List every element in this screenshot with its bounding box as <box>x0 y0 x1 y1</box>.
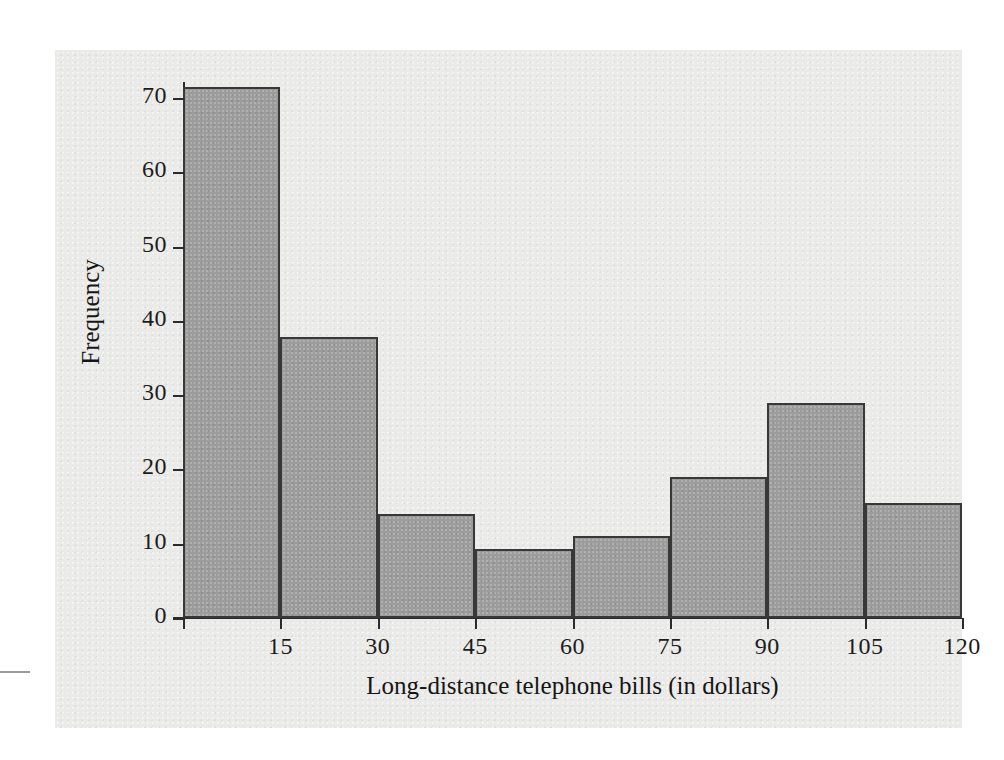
x-axis-tick <box>767 618 769 629</box>
y-axis-tick <box>173 469 184 471</box>
bar-texture <box>477 551 570 616</box>
histogram-bar <box>378 514 475 618</box>
y-axis-tick <box>173 172 184 174</box>
bar-texture <box>867 505 960 616</box>
y-axis-tick <box>173 247 184 249</box>
histogram-bar <box>475 549 572 618</box>
plot-area: 010203040506070 153045607590105120 Long-… <box>55 50 962 728</box>
x-axis-tick-label: 15 <box>245 633 315 660</box>
x-axis-tick-label: 45 <box>440 633 510 660</box>
x-axis-tick-label: 105 <box>830 633 900 660</box>
y-axis-tick-label: 10 <box>107 528 167 555</box>
bar-texture <box>282 339 375 616</box>
x-axis-tick <box>475 618 477 629</box>
histogram-bar <box>865 503 962 618</box>
histogram-bar <box>183 87 280 618</box>
x-axis-tick-label: 90 <box>732 633 802 660</box>
bar-texture <box>575 538 668 616</box>
x-axis-tick <box>378 618 380 629</box>
bar-texture <box>769 405 862 616</box>
x-axis-tick <box>183 618 185 629</box>
x-axis-tick <box>280 618 282 629</box>
histogram-bar <box>573 536 670 618</box>
y-axis-tick <box>173 395 184 397</box>
histogram-bar <box>767 403 864 618</box>
y-axis-tick-label: 50 <box>107 231 167 258</box>
figure-panel: 010203040506070 153045607590105120 Long-… <box>55 50 962 728</box>
y-axis-tick-label: 40 <box>107 305 167 332</box>
x-axis-title: Long-distance telephone bills (in dollar… <box>183 672 962 700</box>
bar-texture <box>380 516 473 616</box>
y-axis-tick-label: 20 <box>107 453 167 480</box>
x-axis-tick-label: 30 <box>343 633 413 660</box>
y-axis-tick-label: 60 <box>107 156 167 183</box>
histogram-bar <box>670 477 767 618</box>
histogram-bar <box>280 337 377 618</box>
y-axis-tick <box>173 544 184 546</box>
bar-texture <box>672 479 765 616</box>
y-axis-tick-label: 0 <box>107 602 167 629</box>
y-axis-tick <box>173 98 184 100</box>
x-axis-tick-label: 60 <box>538 633 608 660</box>
x-axis-tick <box>865 618 867 629</box>
y-axis-title: Frequency <box>77 212 105 412</box>
y-axis-tick <box>173 321 184 323</box>
y-axis-tick-label: 30 <box>107 379 167 406</box>
x-axis-tick-label: 75 <box>635 633 705 660</box>
x-axis-tick-label: 120 <box>927 633 997 660</box>
bar-texture <box>185 89 278 616</box>
y-axis-tick-label: 70 <box>107 82 167 109</box>
x-axis-tick <box>670 618 672 629</box>
margin-rule <box>0 671 30 673</box>
histogram-figure: 010203040506070 153045607590105120 Long-… <box>0 0 1004 760</box>
x-axis-tick <box>573 618 575 629</box>
x-axis-tick <box>962 618 964 629</box>
